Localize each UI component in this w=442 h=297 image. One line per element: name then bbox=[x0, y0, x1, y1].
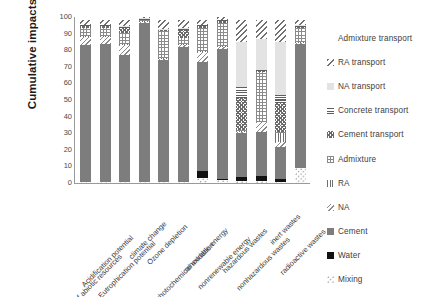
bar-column[interactable] bbox=[271, 17, 291, 183]
bar-segment-mixing[interactable] bbox=[80, 182, 91, 183]
bar-column[interactable] bbox=[291, 17, 311, 183]
stacked-bar[interactable] bbox=[295, 17, 306, 183]
bar-segment-mixing[interactable] bbox=[178, 182, 189, 183]
x-axis-labels: depletion of abiotic resourcesAcidificat… bbox=[76, 185, 310, 285]
bar-segment-concrete-transport[interactable] bbox=[236, 87, 247, 99]
bar-segment-cement[interactable] bbox=[80, 45, 91, 182]
bar-segment-ra[interactable] bbox=[275, 133, 286, 141]
bar-segment-mixing[interactable] bbox=[256, 181, 267, 183]
stacked-bar[interactable] bbox=[275, 17, 286, 183]
bar-segment-na-transport[interactable] bbox=[256, 39, 267, 71]
bar-segment-admixture[interactable] bbox=[119, 33, 130, 45]
bar-segment-cement[interactable] bbox=[197, 62, 208, 171]
bar-segment-cement[interactable] bbox=[139, 23, 150, 182]
bar-segment-na[interactable] bbox=[256, 122, 267, 131]
y-tick-label: 0 bbox=[68, 179, 72, 187]
bar-segment-cement[interactable] bbox=[275, 147, 286, 179]
bar-segment-admixture[interactable] bbox=[178, 38, 189, 45]
legend-item-na-transport[interactable]: NA transport bbox=[327, 74, 439, 98]
stacked-bar[interactable] bbox=[158, 17, 169, 183]
legend-item-ra[interactable]: RA bbox=[327, 171, 439, 195]
bar-column[interactable] bbox=[232, 17, 252, 183]
chart-legend: Admixture transportRA transportNA transp… bbox=[327, 26, 439, 292]
bar-segment-ra-transport[interactable] bbox=[158, 20, 169, 28]
bar-segment-admixture[interactable] bbox=[295, 28, 306, 42]
bar-segment-mixing[interactable] bbox=[100, 182, 111, 183]
legend-item-ra-transport[interactable]: RA transport bbox=[327, 50, 439, 74]
bar-segment-ra-transport[interactable] bbox=[256, 20, 267, 38]
stacked-bar[interactable] bbox=[100, 17, 111, 183]
bar-segment-admixture[interactable] bbox=[217, 23, 228, 46]
bar-segment-cement[interactable] bbox=[217, 49, 228, 179]
legend-item-na[interactable]: NA bbox=[327, 195, 439, 219]
bar-column[interactable] bbox=[193, 17, 213, 183]
bar-segment-cement[interactable] bbox=[100, 44, 111, 182]
legend-label: Concrete transport bbox=[338, 106, 409, 115]
legend-label: NA transport bbox=[338, 82, 385, 91]
bar-segment-ra-transport[interactable] bbox=[178, 20, 189, 27]
stacked-bar[interactable] bbox=[217, 17, 228, 183]
bar-column[interactable] bbox=[135, 17, 155, 183]
bar-segment-na[interactable] bbox=[119, 45, 130, 55]
bar-segment-cement-transport[interactable] bbox=[236, 98, 247, 130]
bar-segment-admixture[interactable] bbox=[100, 28, 111, 36]
bar-segment-cement[interactable] bbox=[119, 55, 130, 182]
bar-segment-mixing[interactable] bbox=[139, 182, 150, 183]
bar-segment-mixing[interactable] bbox=[236, 181, 247, 183]
stacked-bar-chart: Cumulative impacts 010203040506070809010… bbox=[0, 0, 442, 297]
bar-segment-cement[interactable] bbox=[178, 47, 189, 182]
bar-segment-na[interactable] bbox=[80, 37, 91, 45]
bar-column[interactable] bbox=[174, 17, 194, 183]
stacked-bar[interactable] bbox=[256, 17, 267, 183]
bar-segment-admixture[interactable] bbox=[197, 28, 208, 51]
bar-segment-mixing[interactable] bbox=[217, 180, 228, 183]
bar-segment-cement-transport[interactable] bbox=[178, 30, 189, 38]
legend-item-mixing[interactable]: Mixing bbox=[327, 268, 439, 292]
y-tick-label: 60 bbox=[64, 80, 72, 88]
bar-segment-admixture[interactable] bbox=[80, 28, 91, 36]
y-tick-label: 70 bbox=[64, 63, 72, 71]
bar-segment-water[interactable] bbox=[197, 171, 208, 178]
bar-segment-admixture[interactable] bbox=[256, 72, 267, 122]
bar-segment-admixture[interactable] bbox=[158, 31, 169, 58]
bar-segment-cement[interactable] bbox=[295, 44, 306, 167]
legend-swatch-admixture bbox=[327, 156, 334, 163]
bar-segment-mixing[interactable] bbox=[158, 182, 169, 183]
bar-segment-cement[interactable] bbox=[236, 133, 247, 177]
bar-segment-cement-transport[interactable] bbox=[275, 103, 286, 131]
bar-column[interactable] bbox=[76, 17, 96, 183]
legend-swatch-ra-transport bbox=[327, 59, 334, 66]
bar-segment-ra-transport[interactable] bbox=[275, 20, 286, 42]
bar-segment-mixing[interactable] bbox=[295, 168, 306, 183]
stacked-bar[interactable] bbox=[197, 17, 208, 183]
bar-segment-mixing[interactable] bbox=[275, 182, 286, 183]
stacked-bar[interactable] bbox=[119, 17, 130, 183]
bar-segment-na[interactable] bbox=[197, 52, 208, 62]
legend-item-cement[interactable]: Cement bbox=[327, 220, 439, 244]
bar-segment-na-transport[interactable] bbox=[236, 42, 247, 87]
bar-column[interactable] bbox=[252, 17, 272, 183]
bar-segment-ra-transport[interactable] bbox=[236, 20, 247, 42]
legend-item-water[interactable]: Water bbox=[327, 244, 439, 268]
bar-column[interactable] bbox=[96, 17, 116, 183]
legend-item-admixture-transport[interactable]: Admixture transport bbox=[327, 26, 439, 50]
bar-column[interactable] bbox=[213, 17, 233, 183]
bar-segment-cement[interactable] bbox=[256, 132, 267, 177]
legend-item-concrete-transport[interactable]: Concrete transport bbox=[327, 99, 439, 123]
legend-item-cement-transport[interactable]: Cement transport bbox=[327, 123, 439, 147]
stacked-bar[interactable] bbox=[178, 17, 189, 183]
legend-item-admixture[interactable]: Admixture bbox=[327, 147, 439, 171]
y-tick-label: 80 bbox=[64, 46, 72, 54]
bar-column[interactable] bbox=[154, 17, 174, 183]
bar-segment-concrete-transport[interactable] bbox=[275, 95, 286, 103]
bar-segment-cement[interactable] bbox=[158, 60, 169, 182]
stacked-bar[interactable] bbox=[236, 17, 247, 183]
bar-segment-na-transport[interactable] bbox=[275, 42, 286, 95]
bar-segment-mixing[interactable] bbox=[197, 178, 208, 183]
bar-segment-na[interactable] bbox=[100, 37, 111, 44]
legend-swatch-mixing bbox=[327, 276, 334, 283]
bar-segment-mixing[interactable] bbox=[119, 182, 130, 183]
stacked-bar[interactable] bbox=[139, 17, 150, 183]
bar-column[interactable] bbox=[115, 17, 135, 183]
stacked-bar[interactable] bbox=[80, 17, 91, 183]
